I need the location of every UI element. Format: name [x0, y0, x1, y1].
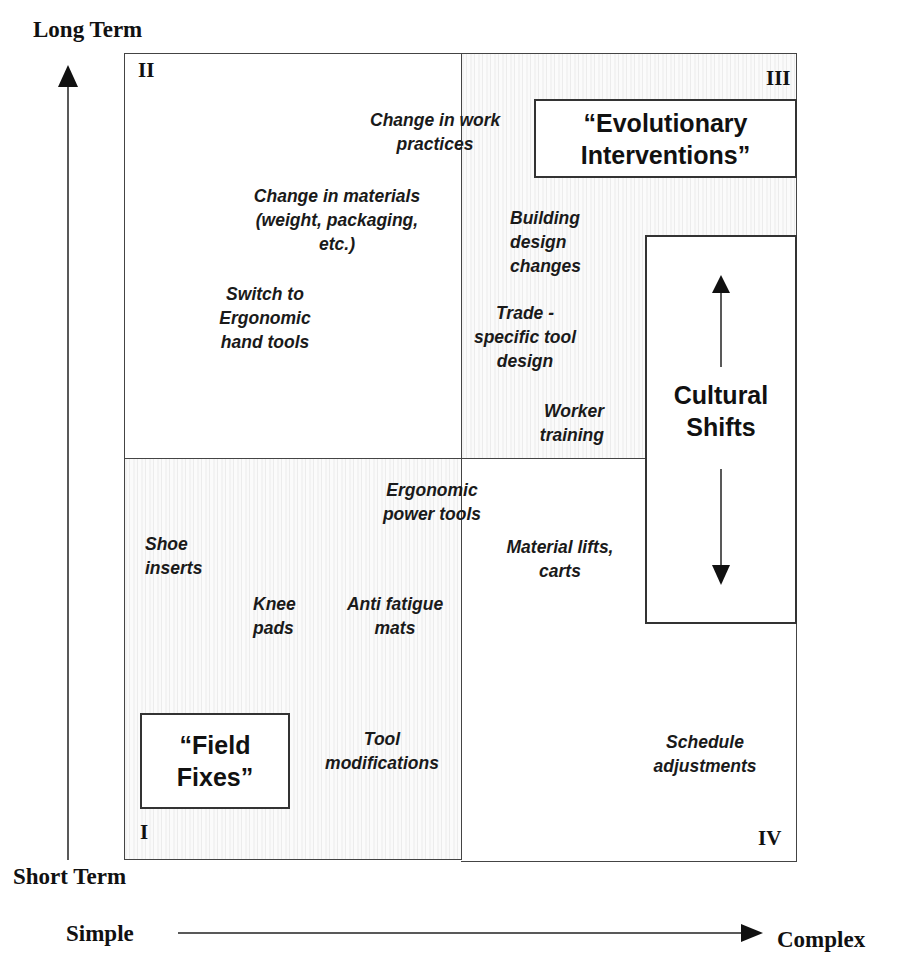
item-change-work-practices: Change in work practices — [370, 108, 500, 156]
item-shoe-inserts: Shoe inserts — [145, 532, 225, 580]
item-material-lifts-carts: Material lifts, carts — [492, 535, 628, 583]
item-knee-pads: Knee pads — [253, 592, 313, 640]
item-trade-specific-tool-design: Trade - specific tool design — [460, 301, 590, 373]
item-worker-training: Worker training — [522, 399, 604, 447]
cultural-shifts-box: Cultural Shifts — [645, 235, 797, 624]
item-schedule-adjustments: Schedule adjustments — [638, 730, 772, 778]
arrow-down-icon — [709, 469, 733, 589]
item-tool-modifications: Tool modifications — [312, 727, 452, 775]
horizontal-axis-arrow-icon — [178, 920, 764, 946]
vertical-axis-arrow-icon — [55, 60, 81, 860]
item-ergonomic-power-tools: Ergonomic power tools — [372, 478, 492, 526]
item-switch-ergonomic-hand-tools: Switch to Ergonomic hand tools — [206, 282, 324, 354]
y-axis-top-label: Long Term — [33, 17, 142, 43]
item-anti-fatigue-mats: Anti fatigue mats — [334, 592, 456, 640]
item-building-design-changes: Building design changes — [510, 206, 604, 278]
y-axis-bottom-label: Short Term — [13, 864, 126, 890]
x-axis-right-label: Complex — [777, 927, 865, 953]
quadrant-4-numeral: IV — [758, 826, 781, 851]
quadrant-1-numeral: I — [140, 820, 148, 845]
quadrant-3-numeral: III — [766, 66, 791, 91]
cultural-shifts-label: Cultural Shifts — [647, 379, 795, 443]
arrow-up-icon — [709, 273, 733, 367]
field-fixes-box: “Field Fixes” — [140, 713, 290, 809]
evolutionary-interventions-box: “Evolutionary Interventions” — [534, 99, 797, 178]
quadrant-2-numeral: II — [138, 58, 154, 83]
x-axis-left-label: Simple — [66, 921, 134, 947]
item-change-materials: Change in materials (weight, packaging, … — [236, 184, 438, 256]
